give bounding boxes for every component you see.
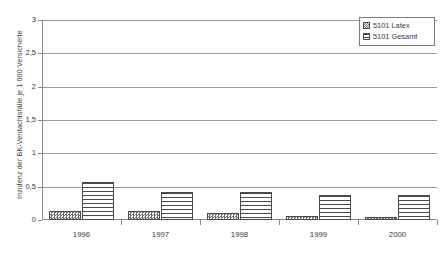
legend-item-latex: 5101 Latex: [363, 20, 431, 31]
x-axis-tick-label: 1998: [210, 230, 270, 239]
x-axis-tick-mark: [200, 220, 201, 225]
x-axis-tick-mark: [121, 220, 122, 225]
legend-item-gesamt: 5101 Gesamt: [363, 31, 431, 42]
chart-legend: 5101 Latex 5101 Gesamt: [359, 17, 435, 46]
legend-item-label: 5101 Gesamt: [373, 32, 417, 41]
x-axis-tick-label: 1999: [289, 230, 349, 239]
x-axis-tick-mark: [279, 220, 280, 225]
x-axis-tick-label: 1997: [131, 230, 191, 239]
x-axis-tick-label: 2000: [368, 230, 428, 239]
checkered-swatch-icon: [363, 22, 370, 29]
x-axis-tick-mark: [358, 220, 359, 225]
striped-swatch-icon: [363, 33, 370, 40]
bar-chart: Inzidenz der BK-Verdachtsfälle je 1 000 …: [0, 0, 443, 254]
x-axis-tick-label: 1996: [52, 230, 112, 239]
legend-item-label: 5101 Latex: [373, 21, 410, 30]
x-axis-tick-mark: [437, 220, 438, 225]
